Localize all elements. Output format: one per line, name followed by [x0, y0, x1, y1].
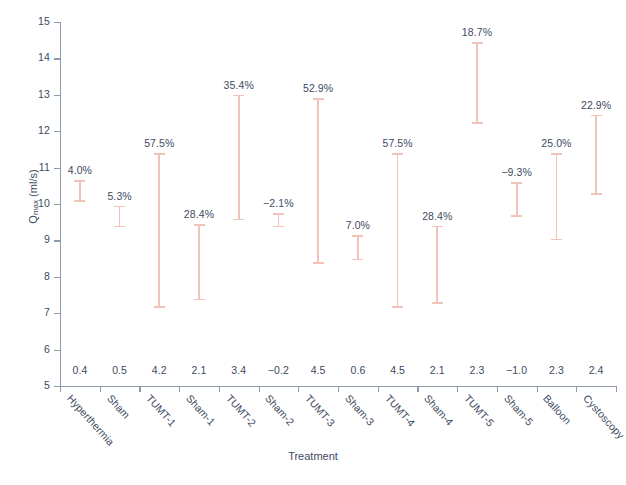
figure-caption: [0, 474, 626, 485]
percent-change-label: 18.7%: [447, 26, 507, 38]
percent-change-label: 28.4%: [169, 208, 229, 220]
percent-change-label: 28.4%: [407, 210, 467, 222]
y-axis-tick-label: 10: [0, 197, 50, 209]
percent-change-label: 7.0%: [328, 219, 388, 231]
error-bar: [317, 98, 319, 262]
y-axis-tick-label: 13: [0, 88, 50, 100]
error-bar: [397, 153, 399, 306]
error-bar-cap-bottom: [74, 200, 85, 202]
x-axis-tick: [537, 386, 538, 392]
error-bar-cap-bottom: [392, 306, 403, 308]
error-bar: [516, 182, 518, 215]
x-axis-tick: [616, 386, 617, 392]
error-bar-cap-top: [472, 42, 483, 44]
error-bar-cap-bottom: [273, 226, 284, 228]
y-axis-tick-label: 11: [0, 161, 50, 173]
y-axis-tick: [54, 95, 60, 96]
error-bar: [357, 235, 359, 259]
x-axis-category-label: Sham-3: [343, 392, 377, 428]
error-bar: [79, 180, 81, 200]
percent-change-label: 57.5%: [129, 137, 189, 149]
y-axis-tick: [54, 22, 60, 23]
x-axis-category-label: Sham: [105, 392, 133, 421]
x-axis-tick: [378, 386, 379, 392]
error-bar-cap-top: [154, 153, 165, 155]
error-bar-cap-bottom: [472, 122, 483, 124]
x-axis-tick: [338, 386, 339, 392]
error-bar-cap-bottom: [432, 302, 443, 304]
percent-change-label: 4.0%: [50, 164, 110, 176]
y-axis-tick: [54, 240, 60, 241]
error-bar-cap-bottom: [313, 262, 324, 264]
y-axis-tick-label: 5: [0, 379, 50, 391]
x-axis-tick: [179, 386, 180, 392]
error-bar-cap-top: [233, 95, 244, 97]
x-axis-tick: [100, 386, 101, 392]
x-axis-tick: [497, 386, 498, 392]
y-axis-tick: [54, 58, 60, 59]
percent-change-label: −2.1%: [248, 197, 308, 209]
chart-canvas: Qmax (ml/s) 56789101112131415 4.0%5.3%57…: [0, 0, 626, 485]
percent-change-label: 22.9%: [566, 99, 626, 111]
y-axis-tick: [54, 277, 60, 278]
y-axis-tick-label: 8: [0, 270, 50, 282]
error-bar-cap-bottom: [194, 299, 205, 301]
percent-change-label: 35.4%: [209, 79, 269, 91]
y-axis-line: [60, 22, 61, 387]
error-bar: [556, 153, 558, 239]
error-bar: [476, 42, 478, 122]
x-axis-title: Treatment: [0, 450, 626, 462]
error-bar-cap-bottom: [352, 259, 363, 261]
error-bar-cap-top: [114, 206, 125, 208]
percent-change-label: 25.0%: [526, 137, 586, 149]
percent-change-label: −9.3%: [487, 166, 547, 178]
x-axis-category-label: TUMT-1: [144, 392, 179, 429]
error-bar-cap-top: [551, 153, 562, 155]
error-bar-cap-bottom: [114, 226, 125, 228]
y-axis-title-base: Q: [27, 215, 39, 224]
error-bar-cap-top: [392, 153, 403, 155]
x-axis-tick: [259, 386, 260, 392]
error-bar-cap-top: [273, 213, 284, 215]
error-bar-cap-bottom: [511, 215, 522, 217]
x-axis-category-label: Cystoscopy: [581, 392, 626, 441]
error-bar-cap-top: [194, 224, 205, 226]
error-bar: [436, 226, 438, 302]
x-axis-tick: [60, 386, 61, 392]
error-bar-cap-bottom: [551, 239, 562, 241]
error-bar: [158, 153, 160, 306]
x-axis-category-label: TUMT-5: [462, 392, 497, 429]
x-axis-tick: [298, 386, 299, 392]
y-axis-tick-label: 15: [0, 15, 50, 27]
y-axis-tick-label: 12: [0, 124, 50, 136]
error-bar: [595, 115, 597, 193]
x-axis-tick: [417, 386, 418, 392]
x-axis-tick: [457, 386, 458, 392]
x-axis-tick: [576, 386, 577, 392]
y-axis-tick: [54, 204, 60, 205]
x-axis-category-label: TUMT-4: [383, 392, 418, 429]
percent-change-label: 52.9%: [288, 82, 348, 94]
y-axis-tick: [54, 313, 60, 314]
error-bar-cap-top: [511, 182, 522, 184]
y-axis-tick-label: 7: [0, 306, 50, 318]
y-axis-tick-label: 14: [0, 51, 50, 63]
error-bar-cap-top: [352, 235, 363, 237]
y-axis-title-unit: (ml/s): [27, 169, 39, 200]
x-axis-category-label: TUMT-3: [303, 392, 338, 429]
y-axis-tick-label: 9: [0, 233, 50, 245]
x-axis-category-label: Sham-2: [263, 392, 297, 428]
x-axis-tick: [139, 386, 140, 392]
x-axis-tick: [219, 386, 220, 392]
percent-change-label: 5.3%: [90, 190, 150, 202]
x-axis-category-label: Sham-4: [422, 392, 456, 428]
y-axis-tick: [54, 350, 60, 351]
error-bar-cap-bottom: [591, 193, 602, 195]
error-bar: [278, 213, 280, 226]
x-axis-category-label: Sham-5: [502, 392, 536, 428]
x-axis-category-label: Sham-1: [184, 392, 218, 428]
error-bar-cap-top: [313, 98, 324, 100]
percent-change-label: 57.5%: [368, 137, 428, 149]
error-bar-cap-bottom: [154, 306, 165, 308]
x-axis-category-label: TUMT-2: [224, 392, 259, 429]
